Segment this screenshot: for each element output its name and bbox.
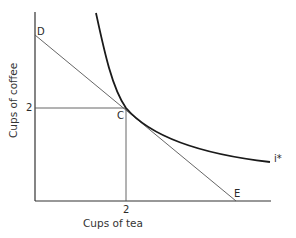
point-label-c: C bbox=[117, 111, 124, 121]
y-axis-label: Cups of coffee bbox=[8, 63, 19, 138]
y-tick-2: 2 bbox=[26, 103, 32, 113]
point-label-e: E bbox=[234, 189, 240, 199]
x-axis-label: Cups of tea bbox=[83, 218, 143, 229]
indifference-curve bbox=[96, 13, 270, 162]
x-tick-2: 2 bbox=[123, 205, 129, 215]
point-label-d: D bbox=[37, 27, 45, 37]
curve-label-i-star: i* bbox=[274, 154, 282, 164]
